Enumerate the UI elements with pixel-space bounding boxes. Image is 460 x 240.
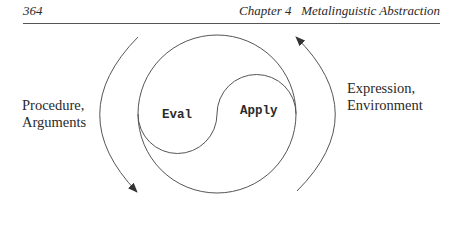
expression-environment-label: Expression, Environment xyxy=(347,80,423,114)
procedure-arguments-label: Procedure, Arguments xyxy=(22,97,86,131)
label-line: Expression, xyxy=(347,80,423,97)
apply-label: Apply xyxy=(240,104,278,118)
right-arrow-arc xyxy=(296,37,335,191)
label-line: Procedure, xyxy=(22,97,86,114)
label-line: Environment xyxy=(347,97,423,114)
eval-label: Eval xyxy=(162,108,192,122)
label-line: Arguments xyxy=(22,114,86,131)
left-arrow-arc xyxy=(100,37,138,192)
